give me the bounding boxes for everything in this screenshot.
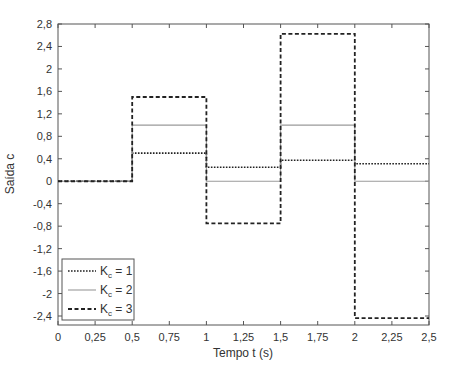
legend-label: Kc = 1 [100,264,133,280]
y-tick-label: -2,4 [33,310,52,322]
series-line-dotted [58,153,429,181]
x-tick-label: 1,5 [273,331,288,343]
y-tick-label: 2,4 [37,40,52,52]
y-tick-label: 0 [46,175,52,187]
y-tick-label: -2 [42,288,52,300]
y-tick-label: 0,8 [37,130,52,142]
y-axis-label: Saída c [3,154,17,195]
x-tick-label: 0,75 [159,331,180,343]
y-tick-label: -0,4 [33,198,52,210]
y-tick-label: 1,2 [37,108,52,120]
series-line-solid [58,125,429,181]
x-tick-label: 0,25 [84,331,105,343]
x-tick-label: 2,25 [381,331,402,343]
x-axis-label: Tempo t (s) [213,346,273,360]
y-tick-label: 0,4 [37,153,52,165]
x-tick-label: 1,25 [233,331,254,343]
step-response-chart: 2,82,421,61,20,80,40-0,4-0,8-1,2-1,6-2-2… [0,0,454,374]
y-tick-label: -1,2 [33,243,52,255]
y-tick-label: -1,6 [33,265,52,277]
x-tick-label: 2,5 [421,331,436,343]
y-tick-label: -0,8 [33,220,52,232]
x-tick-label: 2 [352,331,358,343]
y-tick-label: 2 [46,63,52,75]
x-tick-label: 0,5 [125,331,140,343]
x-tick-label: 0 [55,331,61,343]
legend: Kc = 1Kc = 2Kc = 3 [62,259,134,320]
legend-label: Kc = 2 [100,283,133,299]
legend-label: Kc = 3 [100,302,133,318]
y-tick-label: 2,8 [37,18,52,30]
x-tick-label: 1 [203,331,209,343]
y-tick-label: 1,6 [37,85,52,97]
x-tick-label: 1,75 [307,331,328,343]
